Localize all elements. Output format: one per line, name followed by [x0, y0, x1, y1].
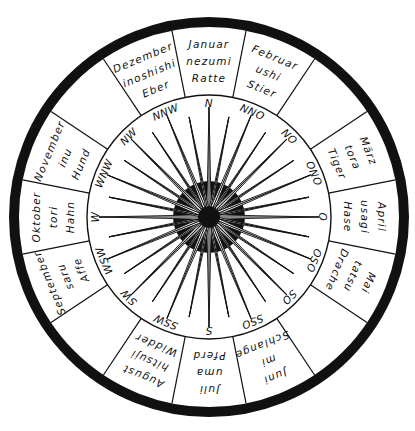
month-segment: JuliumaPferd [192, 350, 225, 396]
segment-divider [103, 318, 141, 375]
segment-divider [233, 31, 246, 98]
month-segment: OktobertoriHahn [30, 192, 76, 243]
month-segment: MaitatsuDrache [323, 247, 378, 296]
segment-divider [329, 180, 396, 193]
compass-center-dot [198, 206, 220, 228]
zodiac-animal: Hase [342, 201, 354, 232]
japanese-zodiac-name: nezumi [186, 55, 232, 67]
japanese-zodiac-name: usagi [359, 200, 371, 234]
segment-divider [277, 318, 315, 375]
direction-label: W [89, 211, 101, 222]
month-segment: FebruarushiStier [246, 42, 300, 100]
month-segment: JunimiSchlange [233, 329, 291, 387]
month-segment: AprilusagiHase [342, 200, 388, 234]
month-name: Januar [187, 38, 230, 50]
segment-divider [310, 285, 367, 323]
month-segment: JanuarnezumiRatte [186, 38, 232, 84]
zodiac-animal: Hahn [64, 201, 76, 233]
zodiac-compass-wheel: JanuarnezumiRatteFebruarushiStierMärztor… [0, 0, 415, 431]
direction-label: S [205, 325, 212, 337]
direction-label: N [205, 97, 213, 109]
month-name: Oktober [30, 192, 42, 243]
month-name: Mai [359, 271, 379, 296]
zodiac-animal: Affe [70, 256, 91, 285]
zodiac-animal: Ratte [192, 72, 226, 84]
direction-label: O [317, 213, 329, 222]
month-name: Juli [199, 384, 221, 396]
compass-calendar-diagram: JanuarnezumiRatteFebruarushiStierMärztor… [0, 0, 415, 431]
month-name: April [376, 201, 388, 232]
japanese-zodiac-name: tori [47, 206, 59, 229]
japanese-zodiac-name: mi [259, 353, 278, 370]
month-segment: MärztoraTiger [326, 135, 381, 182]
japanese-zodiac-name: uma [196, 367, 223, 379]
zodiac-animal: Pferd [192, 350, 225, 362]
month-segment: AugusthitsujiWidder [120, 331, 179, 391]
segment-divider [310, 111, 367, 149]
japanese-zodiac-name: inu [56, 146, 75, 169]
